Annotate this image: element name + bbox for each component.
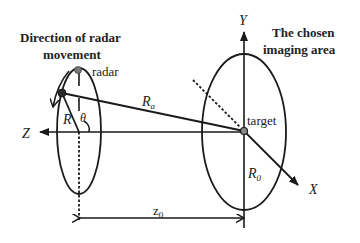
target-dot (241, 128, 248, 135)
radar-imaging-geometry-diagram: Direction of radar movement The chosen i… (0, 0, 360, 243)
imaging-title-line2: imaging area (263, 42, 336, 57)
radar-label: radar (92, 64, 119, 79)
direction-title-line2: movement (43, 47, 101, 62)
radar-start-dot (75, 67, 82, 74)
x-axis-label: X (308, 182, 318, 197)
imaging-dotted-line (193, 80, 240, 127)
radar-dot (58, 89, 66, 97)
z0-label: z0 (153, 203, 164, 220)
target-label: target (247, 113, 277, 128)
z-axis-label: Z (22, 126, 30, 141)
y-axis-label: Y (239, 13, 249, 28)
r0-label: R0 (247, 166, 262, 183)
imaging-title-line1: The chosen (272, 25, 335, 40)
ra-label: Ra (141, 94, 156, 111)
r-label: R (62, 112, 72, 127)
direction-title-line1: Direction of radar (20, 30, 121, 45)
ra-range-line (62, 93, 244, 131)
theta-label: θ (80, 111, 86, 125)
